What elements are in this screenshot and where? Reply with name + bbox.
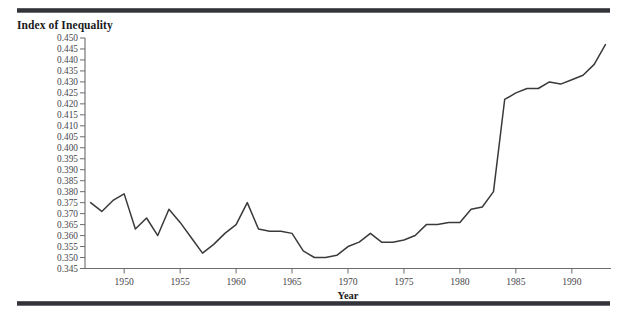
y-tick-label: 0.375 [57,198,78,208]
line-chart [0,0,628,314]
y-axis-tick-labels: 0.3450.3500.3550.3600.3650.3700.3750.380… [0,0,84,314]
y-tick-label: 0.395 [57,154,78,164]
y-tick-label: 0.425 [57,88,78,98]
x-tick-label: 1960 [226,276,245,287]
y-tick-label: 0.420 [57,99,78,109]
x-tick-label: 1975 [394,276,413,287]
y-tick-label: 0.355 [57,242,78,252]
y-tick-label: 0.345 [57,264,78,274]
y-tick-label: 0.400 [57,143,78,153]
axes-group [85,38,611,269]
y-tick-label: 0.370 [57,209,78,219]
x-tick-label: 1980 [450,276,469,287]
y-tick-label: 0.435 [57,66,78,76]
y-tick-label: 0.430 [57,77,78,87]
chart-svg [0,0,628,314]
x-tick-label: 1970 [338,276,357,287]
y-tick-label: 0.445 [57,44,78,54]
y-tick-label: 0.350 [57,253,78,263]
y-tick-label: 0.415 [57,110,78,120]
y-tick-label: 0.360 [57,231,78,241]
y-tick-label: 0.450 [57,33,78,43]
figure-page: Index of Inequality 0.3450.3500.3550.360… [0,0,628,314]
y-tick-label: 0.365 [57,220,78,230]
y-tick-label: 0.405 [57,132,78,142]
x-tick-label: 1985 [506,276,525,287]
x-tick-label: 1955 [171,276,190,287]
y-tick-label: 0.440 [57,55,78,65]
y-tick-label: 0.385 [57,176,78,186]
x-tick-label: 1950 [115,276,134,287]
y-tick-label: 0.380 [57,187,78,197]
x-tick-marks [124,269,572,274]
data-series-line [91,45,606,258]
x-tick-label: 1990 [562,276,581,287]
y-tick-label: 0.410 [57,121,78,131]
y-tick-label: 0.390 [57,165,78,175]
x-tick-label: 1965 [282,276,301,287]
x-axis-title: Year [338,290,359,301]
